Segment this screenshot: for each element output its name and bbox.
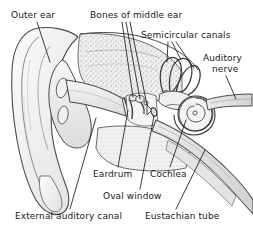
label-external-auditory-canal: External auditory canal (15, 211, 122, 221)
label-outer-ear: Outer ear (11, 10, 55, 20)
label-eardrum: Eardrum (93, 169, 132, 179)
auditory-nerve (206, 94, 252, 110)
label-oval-window: Oval window (103, 191, 162, 201)
ear-anatomy-figure: Outer ear Bones of middle ear Semicircul… (0, 0, 253, 231)
label-semicircular-canals: Semicircular canals (141, 30, 230, 40)
label-auditory-nerve-line2: nerve (212, 64, 238, 74)
label-auditory-nerve-line1: Auditory (203, 53, 242, 63)
label-eustachian-tube: Eustachian tube (145, 211, 219, 221)
label-bones-of-middle-ear: Bones of middle ear (90, 10, 182, 20)
label-cochlea: Cochlea (150, 169, 187, 179)
